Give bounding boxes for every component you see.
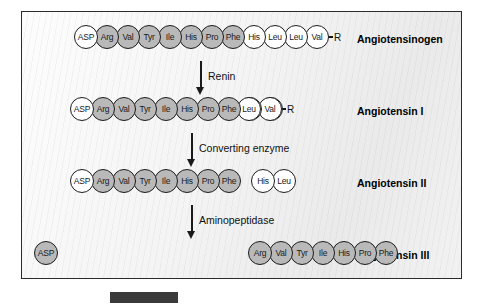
residue-his: His: [175, 97, 199, 121]
peptide-segment: ASPArgValTyrIleHisProPhe: [70, 169, 238, 193]
enzyme-label-renin: Renin: [208, 70, 235, 82]
residue-val: Val: [112, 97, 136, 121]
pathway-figure: ASPArgValTyrIleHisProPheHisLeuLeuValRAng…: [21, 11, 462, 279]
residue-pro: Pro: [353, 241, 377, 265]
enzyme-step-renin: Renin: [196, 61, 235, 95]
row-label-angiotensin-i: Angiotensin I: [357, 105, 424, 117]
residue-his: His: [179, 25, 203, 49]
residue-tyr: Tyr: [137, 25, 161, 49]
residue-val: Val: [116, 25, 140, 49]
residue-asp: ASP: [74, 25, 98, 49]
row-label-angiotensinogen: Angiotensinogen: [357, 33, 443, 45]
residue-val: Val: [269, 241, 293, 265]
residue-tyr: Tyr: [290, 241, 314, 265]
residue-val: Val: [112, 169, 136, 193]
figure-caption: [0, 288, 485, 304]
residue-phe: Phe: [374, 241, 398, 265]
peptide-segment: ASP: [34, 241, 58, 265]
peptide-row-angiotensin-iii: ASPArgValTyrIleHisProPheAngiotensin III: [22, 241, 461, 271]
residue-leu: Leu: [284, 25, 308, 49]
residue-his: His: [332, 241, 356, 265]
residue-phe: Phe: [221, 25, 245, 49]
peptide-segment: HisLeu: [251, 169, 293, 193]
residue-arg: Arg: [91, 169, 115, 193]
peptide-row-angiotensin-ii: ASPArgValTyrIleHisProPheHisLeuAngiotensi…: [22, 169, 461, 199]
residue-phe: Phe: [217, 97, 241, 121]
down-arrow-icon: [187, 133, 196, 167]
residue-ile: Ile: [158, 25, 182, 49]
residue-phe: Phe: [217, 169, 241, 193]
residue-arg: Arg: [248, 241, 272, 265]
residue-leu: Leu: [272, 169, 296, 193]
enzyme-label-converting-enzyme: Converting enzyme: [199, 142, 289, 154]
residue-pro: Pro: [196, 169, 220, 193]
residue-pro: Pro: [200, 25, 224, 49]
residue-val: Val: [305, 25, 329, 49]
peptide-segment: LeuValR: [237, 97, 294, 121]
residue-pro: Pro: [196, 97, 220, 121]
residue-arg: Arg: [91, 97, 115, 121]
residue-ile: Ile: [154, 169, 178, 193]
residue-asp: ASP: [70, 169, 94, 193]
enzyme-step-aminopeptidase: Aminopeptidase: [187, 205, 274, 239]
r-group-tail: R: [327, 32, 341, 43]
peptide-segment: ASPArgValTyrIleHisProPheHisLeuLeuValR: [74, 25, 341, 49]
residue-ile: Ile: [154, 97, 178, 121]
residue-tyr: Tyr: [133, 169, 157, 193]
residue-tyr: Tyr: [133, 97, 157, 121]
peptide-row-angiotensin-i: ASPArgValTyrIleHisProPheHisLeuLeuValRAng…: [22, 97, 461, 127]
down-arrow-icon: [196, 61, 205, 95]
residue-his: His: [175, 169, 199, 193]
enzyme-label-aminopeptidase: Aminopeptidase: [199, 214, 274, 226]
down-arrow-icon: [187, 205, 196, 239]
residue-his: His: [242, 25, 266, 49]
residue-his: His: [251, 169, 275, 193]
residue-asp: ASP: [34, 241, 58, 265]
residue-asp: ASP: [70, 97, 94, 121]
enzyme-step-converting-enzyme: Converting enzyme: [187, 133, 289, 167]
row-label-angiotensin-ii: Angiotensin II: [357, 177, 426, 189]
peptide-row-angiotensinogen: ASPArgValTyrIleHisProPheHisLeuLeuValRAng…: [22, 25, 461, 55]
residue-leu: Leu: [263, 25, 287, 49]
caption-number-chip: [110, 292, 178, 303]
peptide-segment: ArgValTyrIleHisProPhe: [248, 241, 395, 265]
residue-ile: Ile: [311, 241, 335, 265]
residue-arg: Arg: [95, 25, 119, 49]
